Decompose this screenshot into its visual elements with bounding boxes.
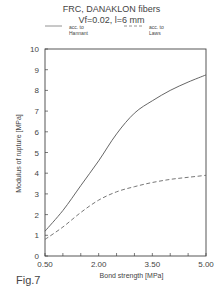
- series-laws-line: [45, 175, 206, 239]
- y-tick-label: 5: [35, 149, 40, 158]
- x-tick-label: 5.00: [198, 260, 214, 269]
- y-tick-label: 7: [35, 107, 40, 116]
- y-tick-label: 4: [35, 169, 40, 178]
- x-axis-ticks: 0.502.003.505.00: [37, 253, 214, 269]
- x-tick-label: 3.50: [145, 260, 161, 269]
- y-tick-label: 1: [35, 231, 40, 240]
- x-tick-label: 0.50: [37, 260, 53, 269]
- y-tick-label: 9: [35, 66, 40, 75]
- plot-frame: [45, 49, 206, 256]
- x-tick-label: 2.00: [91, 260, 107, 269]
- y-tick-label: 10: [30, 45, 39, 54]
- figure-caption: Fig.7: [16, 274, 40, 286]
- y-axis-label: Modulus of rupture [MPa]: [15, 94, 22, 214]
- y-tick-label: 6: [35, 128, 40, 137]
- chart-plot: 012345678910 0.502.003.505.00: [0, 0, 223, 305]
- y-tick-label: 8: [35, 86, 40, 95]
- y-tick-label: 3: [35, 190, 40, 199]
- y-tick-label: 2: [35, 211, 40, 220]
- series-hannant-line: [45, 75, 206, 231]
